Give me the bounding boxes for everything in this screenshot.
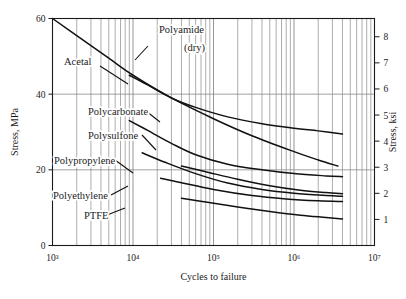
y-right-tick-label: 6 <box>384 84 389 94</box>
chart-canvas: 02040601234567810³10⁴10⁵10⁶10⁷Cycles to … <box>0 0 406 299</box>
y-left-tick-label: 60 <box>36 14 46 24</box>
y-right-tick-label: 3 <box>384 163 389 173</box>
y-right-tick-label: 2 <box>384 189 389 199</box>
x-tick-label: 10³ <box>46 253 59 263</box>
series-curve-acetal <box>129 75 342 134</box>
x-tick-label: 10⁷ <box>368 253 381 263</box>
series-label-acetal: Acetal <box>64 56 91 67</box>
label-leader-line <box>135 46 148 60</box>
y-left-tick-label: 20 <box>36 165 46 175</box>
series-label-ptfe: PTFE <box>84 210 109 221</box>
y-right-axis-title: Stress, ksi <box>387 111 398 152</box>
fatigue-curve-figure: 02040601234567810³10⁴10⁵10⁶10⁷Cycles to … <box>0 0 406 299</box>
series-label-polycarbonate: Polycarbonate <box>88 106 148 117</box>
y-left-axis-title: Stress, MPa <box>9 108 20 156</box>
series-curve-polyamide-dry <box>53 19 338 167</box>
y-left-tick-label: 40 <box>36 90 46 100</box>
y-left-tick-label: 0 <box>41 241 46 251</box>
y-right-tick-label: 8 <box>384 32 389 42</box>
series-label-polyethylene: Polyethylene <box>53 190 108 201</box>
series-label-polyamide: Polyamide <box>159 24 204 35</box>
y-right-tick-label: 7 <box>384 58 389 68</box>
y-right-tick-label: 1 <box>384 215 389 225</box>
series-label--dry: (dry) <box>184 42 205 54</box>
x-tick-label: 10⁵ <box>207 253 220 263</box>
label-leader-line <box>146 111 160 122</box>
x-tick-label: 10⁴ <box>127 253 141 263</box>
x-axis-title: Cycles to failure <box>180 271 247 282</box>
series-label-polypropylene: Polypropylene <box>54 155 116 166</box>
label-leader-line <box>115 160 133 173</box>
x-tick-label: 10⁶ <box>288 253 301 263</box>
label-leader-line <box>107 208 125 215</box>
series-label-polysulfone: Polysulfone <box>88 130 139 141</box>
label-leader-line <box>142 135 156 150</box>
